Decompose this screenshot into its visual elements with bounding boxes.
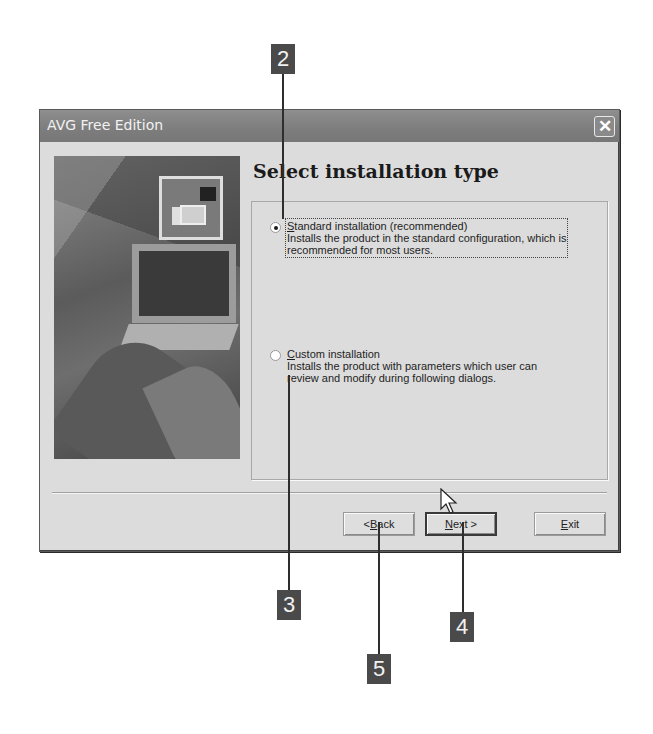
close-button[interactable]: ✕ — [594, 116, 615, 137]
callout-5-leader — [378, 522, 380, 654]
option-standard-text[interactable]: Standard installation (recommended) Inst… — [287, 220, 566, 256]
option-custom-label: Custom installation — [287, 348, 537, 360]
footer-separator — [52, 492, 607, 494]
callout-3: 3 — [277, 590, 301, 620]
page-title: Select installation type — [253, 160, 499, 182]
next-button[interactable]: Next > — [425, 512, 497, 536]
monitor-shape — [180, 205, 206, 225]
installer-window: AVG Free Edition ✕ Select installation t… — [39, 109, 620, 552]
callout-4: 4 — [450, 612, 474, 642]
callout-3-leader — [288, 375, 290, 590]
close-icon: ✕ — [598, 116, 612, 137]
window-title: AVG Free Edition — [47, 117, 163, 133]
option-standard-desc-2: recommended for most users. — [287, 244, 566, 256]
exit-button[interactable]: Exit — [534, 512, 606, 536]
callout-5: 5 — [367, 654, 391, 684]
option-custom-text[interactable]: Custom installation Installs the product… — [287, 348, 537, 384]
option-custom-desc-2: review and modify during following dialo… — [287, 372, 537, 384]
monitor-graphic — [132, 244, 236, 323]
option-standard-label: Standard installation (recommended) — [287, 220, 566, 232]
callout-4-leader — [462, 522, 464, 612]
flag-shape — [200, 187, 216, 201]
radio-standard[interactable] — [270, 222, 281, 233]
radio-custom[interactable] — [270, 350, 281, 361]
computer-icon — [159, 176, 223, 240]
installation-options-panel: Standard installation (recommended) Inst… — [251, 201, 608, 480]
banner-image — [54, 156, 240, 459]
option-custom-desc-1: Installs the product with parameters whi… — [287, 360, 537, 372]
tower-shape — [172, 207, 180, 225]
callout-2: 2 — [271, 44, 295, 74]
option-custom[interactable]: Custom installation Installs the product… — [270, 348, 590, 388]
option-standard-desc-1: Installs the product in the standard con… — [287, 232, 566, 244]
title-bar[interactable]: AVG Free Edition ✕ — [40, 110, 619, 142]
callout-2-leader — [282, 74, 284, 219]
option-standard[interactable]: Standard installation (recommended) Inst… — [270, 220, 590, 260]
mouse-cursor-icon — [440, 488, 458, 516]
